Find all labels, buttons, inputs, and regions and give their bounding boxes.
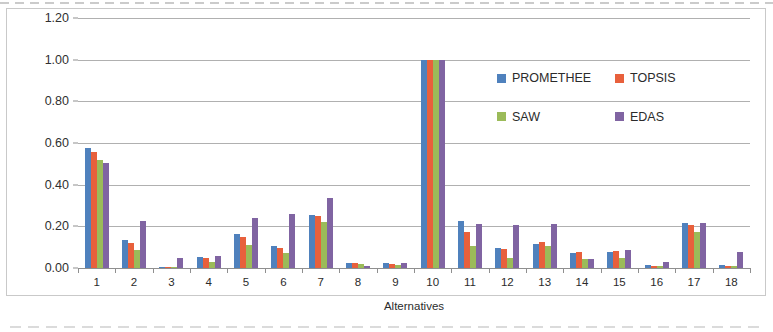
bar-edas-13 <box>551 224 557 268</box>
bar-group <box>190 18 227 268</box>
plot-area: 0.000.200.400.600.801.001.20 12345678910… <box>78 18 750 268</box>
x-tick-mark <box>153 268 154 273</box>
bar-edas-4 <box>215 256 221 269</box>
bar-group <box>563 18 600 268</box>
x-tick-label-7: 7 <box>317 276 323 288</box>
x-tick-mark <box>713 268 714 273</box>
legend-item-topsis[interactable]: TOPSIS <box>615 72 727 85</box>
x-tick-label-12: 12 <box>501 276 514 288</box>
x-tick-label-4: 4 <box>205 276 211 288</box>
x-tick-mark <box>190 268 191 273</box>
x-tick-label-18: 18 <box>725 276 738 288</box>
bar-edas-2 <box>140 221 146 268</box>
bar-edas-3 <box>177 258 183 268</box>
bar-edas-15 <box>625 250 631 268</box>
x-tick-mark <box>339 268 340 273</box>
legend-label: TOPSIS <box>630 72 676 85</box>
y-tick-label: 1.00 <box>45 53 69 67</box>
legend-item-promethee[interactable]: PROMETHEE <box>497 72 615 85</box>
bar-edas-9 <box>401 263 407 268</box>
x-axis-title: Alternatives <box>78 300 750 312</box>
y-tick-label: 0.60 <box>45 136 69 150</box>
x-tick-mark <box>601 268 602 273</box>
bar-group <box>638 18 675 268</box>
bar-edas-1 <box>103 163 109 268</box>
bar-group <box>153 18 190 268</box>
x-tick-mark <box>675 268 676 273</box>
bar-group <box>526 18 563 268</box>
bars-layer <box>78 18 750 268</box>
bar-group <box>78 18 115 268</box>
bar-group <box>414 18 451 268</box>
bar-group <box>265 18 302 268</box>
bar-edas-16 <box>663 262 669 268</box>
x-tick-label-2: 2 <box>131 276 137 288</box>
y-tick-label: 0.20 <box>45 219 69 233</box>
legend-label: PROMETHEE <box>512 72 591 85</box>
x-tick-mark <box>302 268 303 273</box>
bar-group <box>115 18 152 268</box>
bar-edas-7 <box>327 198 333 268</box>
bar-edas-17 <box>700 223 706 268</box>
legend-swatch-icon <box>497 112 506 121</box>
bar-group <box>227 18 264 268</box>
x-tick-mark <box>563 268 564 273</box>
x-tick-label-5: 5 <box>243 276 249 288</box>
bar-edas-18 <box>737 252 743 268</box>
x-tick-mark <box>638 268 639 273</box>
x-tick-label-17: 17 <box>688 276 701 288</box>
x-tick-label-16: 16 <box>650 276 663 288</box>
chart-legend: PROMETHEETOPSISSAWEDAS <box>497 72 727 123</box>
legend-swatch-icon <box>497 74 506 83</box>
legend-item-edas[interactable]: EDAS <box>615 111 727 124</box>
x-tick-label-14: 14 <box>576 276 589 288</box>
x-tick-label-9: 9 <box>392 276 398 288</box>
x-tick-mark <box>377 268 378 273</box>
x-tick-label-10: 10 <box>426 276 439 288</box>
bar-group <box>339 18 376 268</box>
x-tick-label-15: 15 <box>613 276 626 288</box>
y-tick-label: 0.80 <box>45 94 69 108</box>
x-tick-mark <box>451 268 452 273</box>
x-tick-mark <box>414 268 415 273</box>
bar-edas-12 <box>513 225 519 268</box>
x-tick-mark <box>78 268 79 273</box>
x-tick-mark <box>227 268 228 273</box>
bar-edas-14 <box>588 259 594 268</box>
x-tick-label-3: 3 <box>168 276 174 288</box>
chart-container: Aggregate criteria (normalised) 0.000.20… <box>0 0 773 332</box>
x-tick-mark <box>115 268 116 273</box>
bar-group <box>451 18 488 268</box>
x-tick-label-11: 11 <box>464 276 476 288</box>
bar-group <box>675 18 712 268</box>
legend-label: EDAS <box>630 111 664 124</box>
bar-edas-11 <box>476 224 482 268</box>
y-tick-label: 0.40 <box>45 178 69 192</box>
scan-artifact-bottom <box>10 326 762 328</box>
bar-group <box>302 18 339 268</box>
x-tick-label-1: 1 <box>93 276 99 288</box>
x-tick-mark <box>750 268 751 273</box>
bar-edas-6 <box>289 214 295 268</box>
x-tick-mark <box>265 268 266 273</box>
bar-group <box>489 18 526 268</box>
x-tick-mark <box>526 268 527 273</box>
legend-swatch-icon <box>615 112 624 121</box>
bar-group <box>713 18 750 268</box>
x-tick-mark <box>489 268 490 273</box>
scan-artifact-top <box>0 2 773 4</box>
bar-edas-8 <box>364 266 370 268</box>
bar-edas-5 <box>252 218 258 268</box>
legend-label: SAW <box>512 111 540 124</box>
y-tick-label: 1.20 <box>45 11 69 25</box>
x-tick-label-8: 8 <box>355 276 361 288</box>
x-tick-label-6: 6 <box>280 276 286 288</box>
bar-group <box>601 18 638 268</box>
legend-item-saw[interactable]: SAW <box>497 111 615 124</box>
x-tick-label-13: 13 <box>538 276 551 288</box>
bar-group <box>377 18 414 268</box>
y-tick-label: 0.00 <box>45 261 69 275</box>
legend-swatch-icon <box>615 74 624 83</box>
bar-edas-10 <box>439 60 445 268</box>
